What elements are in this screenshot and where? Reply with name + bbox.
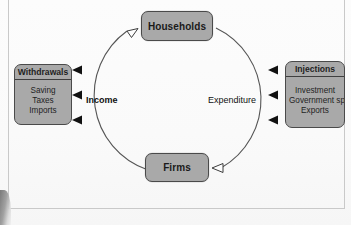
injection-arrowhead-icon-3	[268, 116, 278, 125]
node-firms-label: Firms	[163, 162, 191, 173]
box-withdrawals[interactable]: Withdrawals Saving Taxes Imports	[14, 64, 72, 125]
box-injections-items: Investment Government spending Exports	[286, 77, 344, 128]
box-withdrawals-items: Saving Taxes Imports	[15, 80, 71, 125]
injection-arrowhead-icon-2	[268, 91, 278, 100]
node-firms[interactable]: Firms	[145, 153, 209, 182]
withdrawal-arrowhead-icon-2	[72, 91, 82, 100]
list-item: Exports	[289, 106, 341, 116]
flow-label-income: Income	[86, 95, 118, 105]
withdrawal-arrowhead-icon-3	[72, 116, 82, 125]
box-injections-header: Injections	[286, 62, 344, 77]
box-injections[interactable]: Injections Investment Government spendin…	[285, 61, 345, 128]
list-item: Saving	[18, 86, 68, 96]
income-arrowhead-icon	[127, 29, 138, 38]
withdrawal-arrowhead-icon-1	[72, 66, 82, 75]
expenditure-arrowhead-icon	[212, 164, 223, 173]
list-item: Imports	[18, 106, 68, 116]
list-item: Government spending	[289, 96, 341, 106]
list-item: Taxes	[18, 96, 68, 106]
box-withdrawals-header: Withdrawals	[15, 65, 71, 80]
injection-arrowhead-icon-1	[268, 66, 278, 75]
node-households-label: Households	[148, 21, 206, 32]
node-households[interactable]: Households	[141, 11, 213, 41]
flow-label-expenditure: Expenditure	[208, 95, 256, 105]
list-item: Investment	[289, 86, 341, 96]
diagram-page: Households Firms Withdrawals Saving Taxe…	[0, 0, 351, 225]
